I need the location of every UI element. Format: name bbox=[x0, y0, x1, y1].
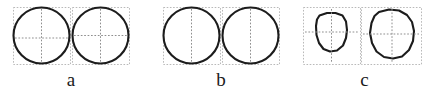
panel-c-label: c bbox=[297, 68, 432, 92]
panel-a: a bbox=[5, 0, 137, 100]
panel-a-canvas bbox=[5, 0, 137, 70]
panel-c-canvas bbox=[297, 0, 432, 70]
panel-c-shape-left-outline bbox=[316, 13, 347, 52]
figure-root: abc bbox=[0, 0, 437, 100]
panel-a-shape-left bbox=[14, 8, 71, 65]
panel-a-label: a bbox=[5, 68, 137, 92]
panel-c-shape-right bbox=[362, 8, 422, 65]
panel-c: c bbox=[297, 0, 432, 100]
panel-b-shape-left bbox=[164, 8, 221, 65]
panel-a-shape-right bbox=[73, 8, 130, 65]
panel-b: b bbox=[155, 0, 287, 100]
panel-b-canvas bbox=[155, 0, 287, 70]
panel-b-shape-right bbox=[223, 8, 280, 65]
panel-c-shape-left bbox=[304, 8, 361, 65]
panel-b-label: b bbox=[155, 68, 287, 92]
